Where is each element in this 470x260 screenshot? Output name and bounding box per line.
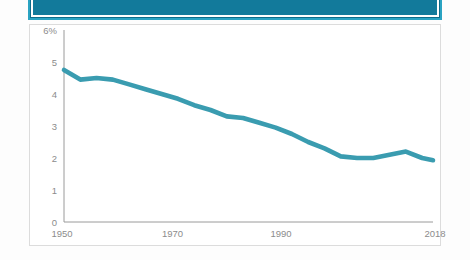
x-axis-tick-labels: 1950197019902018	[51, 228, 445, 239]
x-tick-1970: 1970	[162, 228, 183, 239]
x-tick-1990: 1990	[270, 228, 291, 239]
line-chart: 6%543210 1950197019902018	[0, 0, 470, 260]
x-tick-2018: 2018	[424, 228, 445, 239]
y-tick-2: 2	[52, 153, 57, 164]
chart-svg: 6%543210 1950197019902018	[0, 0, 470, 260]
chart-screenshot: 6%543210 1950197019902018	[0, 0, 470, 260]
y-tick-5: 5	[52, 57, 57, 68]
y-tick-0: 0	[52, 217, 57, 228]
y-tick-1: 1	[52, 185, 57, 196]
data-series-line	[64, 70, 433, 160]
y-axis-tick-labels: 6%543210	[43, 25, 57, 228]
x-tick-1950: 1950	[51, 228, 72, 239]
y-tick-4: 4	[52, 89, 57, 100]
axis-lines	[64, 30, 433, 222]
y-tick-3: 3	[52, 121, 57, 132]
y-tick-6%: 6%	[43, 25, 57, 36]
